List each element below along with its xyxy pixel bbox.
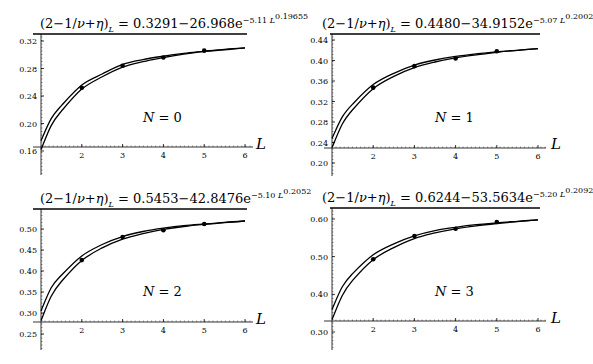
x-tick-label: 3	[120, 326, 125, 335]
x-axis-label: L	[551, 309, 561, 327]
fit-b: 42.8476	[189, 191, 243, 206]
data-point-marker	[412, 234, 417, 239]
fit-d: 0.2052	[283, 187, 311, 196]
y-tick-label: 0.36	[310, 77, 328, 86]
y-tick-label: 0.45	[19, 246, 37, 255]
y-tick-label: 0.30	[19, 309, 37, 318]
n-eq: =	[154, 284, 173, 299]
y-tick-label: 0.25	[19, 330, 37, 339]
title-part: =	[114, 191, 133, 206]
y-tick-label: 0.30	[310, 328, 328, 337]
title-part: +	[85, 191, 96, 206]
title-part: (2−1/	[40, 191, 77, 206]
fit-curve	[41, 221, 245, 321]
x-tick-label: 3	[412, 152, 417, 161]
x-tick-label: 5	[494, 152, 499, 161]
data-point-marker	[371, 257, 376, 262]
x-tick-label: 6	[535, 152, 540, 161]
n-value: 2	[174, 284, 182, 299]
n-label: N = 2	[143, 284, 182, 299]
fit-formula-title: (2−1/ν+η)L = 0.5453−42.8476e−5.10 L0.205…	[40, 187, 311, 209]
x-tick-label: 4	[453, 325, 458, 334]
data-point-marker	[453, 226, 458, 231]
title-nu: ν	[77, 191, 85, 206]
x-tick-label: 6	[535, 325, 540, 334]
title-part: e	[525, 190, 533, 205]
y-tick-label: 0.60	[310, 215, 328, 224]
title-eta: η	[378, 16, 386, 31]
x-tick-label: 2	[371, 325, 376, 334]
title-part: e	[243, 191, 251, 206]
data-point-marker	[495, 220, 500, 225]
n-symbol: N	[435, 110, 446, 125]
y-tick-label: 0.24	[310, 139, 328, 148]
y-tick-label: 0.32	[310, 98, 328, 107]
x-tick-label: 3	[412, 325, 417, 334]
fit-formula-title: (2−1/ν+η)L = 0.6244−53.5634e−5.20 L0.209…	[322, 186, 593, 208]
data-point-marker	[202, 222, 207, 227]
panel-n3: (2−1/ν+η)L = 0.6244−53.5634e−5.20 L0.209…	[0, 0, 290, 182]
fit-exponent: −5.07 L0.2002	[533, 16, 593, 25]
y-tick-label: 0.40	[19, 267, 37, 276]
x-axis-label: L	[551, 135, 561, 153]
title-nu: ν	[359, 16, 367, 31]
fit-b: 53.5634	[471, 190, 525, 205]
n-symbol: N	[435, 284, 446, 299]
x-tick-label: 4	[453, 152, 458, 161]
n-label: N = 1	[435, 110, 474, 125]
fit-d: 0.2002	[565, 12, 593, 21]
title-part: (2−1/	[322, 16, 359, 31]
y-tick-label: 0.40	[310, 57, 328, 66]
fit-c: 5.10	[258, 191, 276, 200]
y-tick-label: 0.28	[310, 118, 328, 127]
title-part: −	[461, 190, 472, 205]
x-tick-label: 2	[371, 152, 376, 161]
fit-curve	[332, 49, 538, 148]
y-tick-label: 0.35	[19, 288, 37, 297]
fit-c: 5.20	[540, 190, 558, 199]
data-point-marker	[371, 85, 376, 90]
exp-part: −	[533, 190, 540, 199]
fit-b: 34.9152	[471, 16, 525, 31]
title-part: +	[367, 16, 378, 31]
fit-exponent: −5.20 L0.2092	[533, 190, 593, 199]
data-point-marker	[453, 56, 458, 61]
fit-d: 0.2092	[565, 186, 593, 195]
data-point-marker	[412, 64, 417, 69]
data-point-marker	[495, 49, 500, 54]
fit-a: 0.5453	[133, 191, 179, 206]
fit-c: 5.07	[540, 16, 558, 25]
x-tick-label: 4	[161, 326, 166, 335]
title-part: (2−1/	[322, 190, 359, 205]
title-part: −	[179, 191, 190, 206]
title-eta: η	[378, 190, 386, 205]
fit-a: 0.4480	[415, 16, 461, 31]
y-tick-label: 0.50	[19, 225, 37, 234]
title-part: =	[396, 16, 415, 31]
title-part: e	[525, 16, 533, 31]
title-part: +	[367, 190, 378, 205]
x-tick-label: 5	[494, 325, 499, 334]
fit-curve	[332, 220, 538, 320]
n-value: 3	[466, 284, 474, 299]
x-tick-label: 6	[242, 326, 247, 335]
y-tick-label: 0.44	[310, 36, 328, 45]
n-symbol: N	[143, 284, 154, 299]
fit-formula-title: (2−1/ν+η)L = 0.4480−34.9152e−5.07 L0.200…	[322, 12, 593, 34]
x-tick-label: 5	[202, 326, 207, 335]
y-tick-label: 0.40	[310, 290, 328, 299]
x-tick-label: 2	[79, 326, 84, 335]
title-part: −	[461, 16, 472, 31]
x-axis-label: L	[256, 310, 266, 328]
n-value: 1	[466, 110, 474, 125]
n-label: N = 3	[435, 284, 474, 299]
exp-part: −	[533, 16, 540, 25]
y-tick-label: 0.50	[310, 253, 328, 262]
y-tick-label: 0.20	[310, 159, 328, 168]
title-eta: η	[96, 191, 104, 206]
title-part: =	[396, 190, 415, 205]
title-nu: ν	[359, 190, 367, 205]
fit-exponent: −5.10 L0.2052	[251, 191, 311, 200]
data-point-marker	[120, 235, 125, 240]
n-eq: =	[446, 110, 465, 125]
